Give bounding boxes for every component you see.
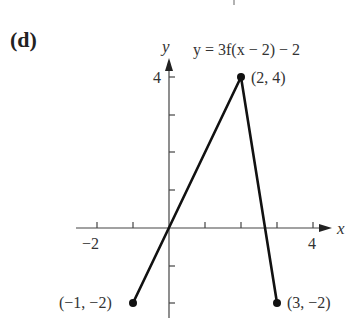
x-ticks <box>97 222 313 228</box>
point-2-4 <box>237 73 245 81</box>
y-axis <box>165 58 175 318</box>
graph: y x −2 4 4 y = 3f(x − 2) − 2 (−1, −2) (2… <box>0 0 360 322</box>
x-tick-label-4: 4 <box>308 235 316 252</box>
annotation-neg1-neg2: (−1, −2) <box>59 294 112 312</box>
y-ticks <box>169 77 175 303</box>
graph-line <box>133 77 277 303</box>
annotation-3-neg2: (3, −2) <box>287 294 331 312</box>
y-axis-arrow-icon <box>165 58 173 71</box>
y-axis-label: y <box>160 37 170 56</box>
point-3-neg2 <box>273 299 281 307</box>
function-label: y = 3f(x − 2) − 2 <box>193 41 300 59</box>
x-axis-label: x <box>336 219 345 238</box>
x-tick-label-neg2: −2 <box>82 235 99 252</box>
point-neg1-neg2 <box>129 299 137 307</box>
y-tick-label-4: 4 <box>153 69 161 86</box>
annotation-2-4: (2, 4) <box>251 69 286 87</box>
x-axis-arrow-icon <box>319 224 332 232</box>
x-axis <box>76 222 332 232</box>
